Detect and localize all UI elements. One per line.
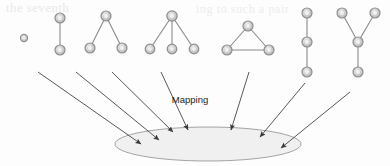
mapping-arrow-7: [281, 92, 350, 148]
graph-node-inner: [225, 48, 229, 52]
graph-node-inner: [356, 40, 360, 44]
graph-node-inner: [305, 11, 309, 15]
bleed-text-right: ing to such a pair: [196, 2, 289, 16]
graph-y-shape-tree: [337, 8, 380, 77]
graph-node-inner: [148, 47, 152, 51]
graph-three-node-path: [302, 8, 312, 77]
graph-node-inner: [170, 47, 174, 51]
graph-edge: [150, 16, 172, 49]
graph-star-two-leaves: [85, 11, 127, 53]
graph-node-inner: [23, 37, 26, 40]
graph-node-inner: [120, 46, 124, 50]
mapping-arrow-6: [260, 83, 305, 137]
graph-node-inner: [356, 70, 360, 74]
graph-node-inner: [340, 11, 344, 15]
graph-edge: [172, 16, 194, 49]
mapping-label: Mapping: [172, 94, 208, 105]
graph-node-inner: [88, 46, 92, 50]
graph-single-node: [20, 34, 27, 41]
graph-node-inner: [305, 40, 309, 44]
graph-node-inner: [246, 24, 250, 28]
graph-node-inner: [58, 16, 62, 20]
graph-two-node-edge: [55, 13, 65, 55]
graph-node-inner: [58, 48, 62, 52]
graph-node-inner: [192, 47, 196, 51]
graph-mapping-figure: the seventh ing to such a pair: [0, 0, 390, 166]
background-bleed-artifact: the seventh ing to such a pair: [6, 0, 289, 16]
graph-node-inner: [305, 70, 309, 74]
graph-node-inner: [373, 11, 377, 15]
figure-canvas: the seventh ing to such a pair: [0, 0, 390, 166]
mapping-target-ellipse: [115, 127, 301, 161]
graph-star-three-leaves: [145, 11, 199, 54]
graph-triangle-cycle: [222, 21, 274, 55]
mapping-arrow-3: [112, 72, 173, 132]
graph-node-inner: [170, 14, 174, 18]
graph-node-inner: [267, 48, 271, 52]
graph-node-inner: [104, 14, 108, 18]
mapping-arrow-5: [231, 72, 249, 130]
